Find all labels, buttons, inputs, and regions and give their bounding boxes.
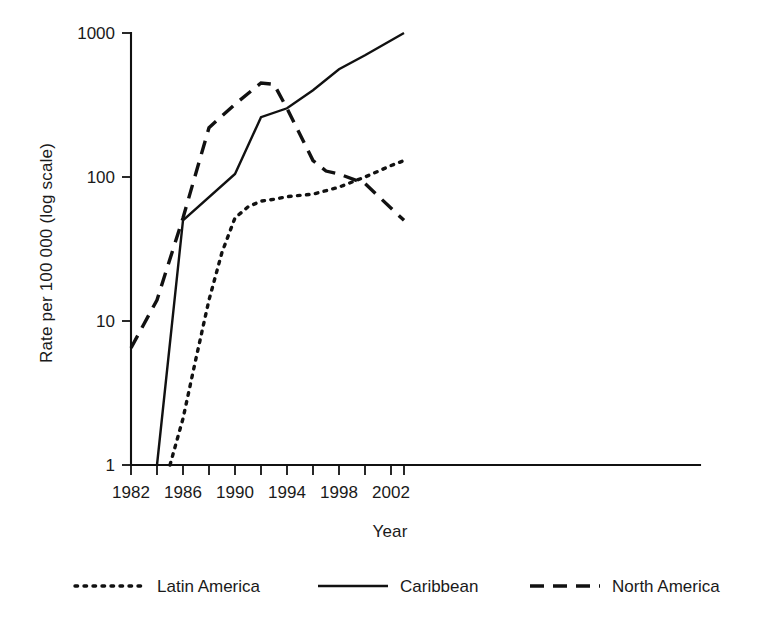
chart-figure: 1000100101 198219861990199419982002 Lati… (0, 0, 770, 626)
chart-legend: Latin AmericaCaribbeanNorth America (75, 577, 720, 596)
x-tick-label: 1986 (164, 483, 202, 502)
x-tick-label: 1982 (112, 483, 150, 502)
y-tick-label: 100 (87, 168, 115, 187)
data-series-group (131, 33, 404, 465)
x-tick-label: 1990 (216, 483, 254, 502)
x-tick-label: 1998 (320, 483, 358, 502)
series-line-north-america (131, 83, 404, 348)
y-tick-label: 1000 (77, 24, 115, 43)
y-axis-ticks: 1000100101 (77, 24, 131, 475)
legend-label-north-america: North America (612, 577, 720, 596)
legend-label-latin-america: Latin America (157, 577, 261, 596)
legend-label-caribbean: Caribbean (400, 577, 478, 596)
x-tick-label: 1994 (268, 483, 306, 502)
x-tick-label: 2002 (372, 483, 410, 502)
y-tick-label: 1 (106, 456, 115, 475)
x-axis-title: Year (330, 522, 450, 542)
y-tick-label: 10 (96, 312, 115, 331)
y-axis-title: Rate per 100 000 (log scale) (37, 88, 57, 418)
series-line-latin-america (170, 161, 404, 465)
x-axis-ticks: 198219861990199419982002 (112, 465, 410, 502)
